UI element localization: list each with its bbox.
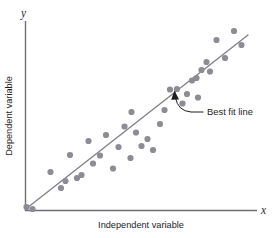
data-point	[85, 138, 91, 144]
data-point	[133, 129, 139, 135]
data-point	[157, 121, 163, 127]
scatter-plot-figure: y x Independent variable Dependent varia…	[0, 0, 277, 238]
data-point	[29, 206, 35, 212]
data-point	[121, 123, 127, 129]
data-point	[161, 107, 167, 113]
data-point	[23, 204, 29, 210]
data-point	[198, 67, 204, 73]
x-axis-name: x	[260, 204, 267, 216]
data-point	[110, 165, 116, 171]
data-point	[103, 132, 109, 138]
data-point	[47, 169, 53, 175]
data-point	[203, 59, 209, 65]
plot-canvas: y x Independent variable Dependent varia…	[0, 0, 277, 238]
data-point	[179, 100, 185, 106]
y-axis-label: Dependent variable	[4, 76, 14, 156]
data-point	[193, 75, 199, 81]
data-point	[150, 147, 156, 153]
best-fit-line-annotation-label: Best fit line	[207, 106, 253, 117]
data-point	[58, 185, 64, 191]
data-point	[115, 144, 121, 150]
data-point	[128, 109, 134, 115]
data-point	[78, 172, 84, 178]
data-point	[238, 42, 244, 48]
best-fit-line	[27, 35, 248, 208]
data-point	[184, 91, 190, 97]
x-axis-label: Independent variable	[98, 220, 184, 230]
data-point	[62, 178, 68, 184]
data-point	[207, 68, 213, 74]
data-point	[97, 152, 103, 158]
data-point	[67, 152, 73, 158]
y-axis-name: y	[20, 7, 27, 20]
data-point	[167, 86, 173, 92]
data-point	[195, 94, 201, 100]
data-point	[90, 160, 96, 166]
data-point	[144, 136, 150, 142]
data-point	[222, 55, 228, 61]
data-point	[231, 28, 237, 34]
data-point	[127, 155, 133, 161]
data-point	[138, 143, 144, 149]
data-point	[213, 37, 219, 43]
